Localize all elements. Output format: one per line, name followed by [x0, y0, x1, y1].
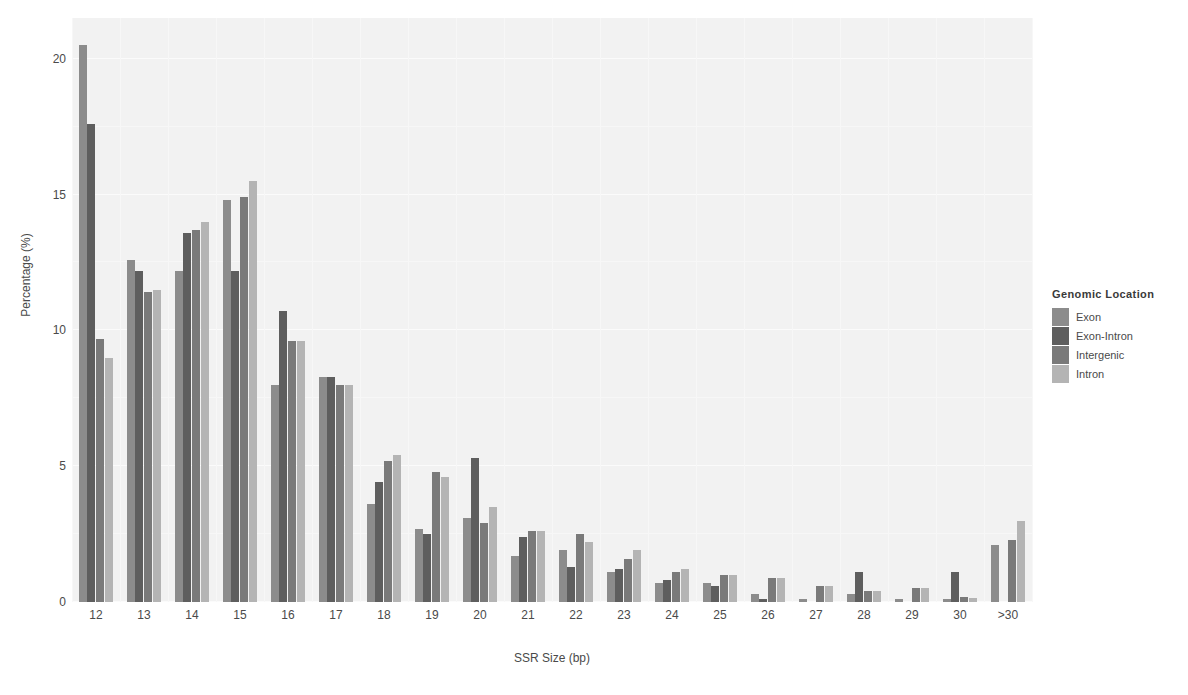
- bar: [847, 594, 855, 602]
- bar: [79, 45, 87, 602]
- bar: [672, 572, 680, 602]
- x-tick-label: 22: [552, 608, 600, 622]
- bar: [703, 583, 711, 602]
- legend-item-label: Exon: [1076, 311, 1101, 323]
- y-tick-label: 10: [26, 324, 66, 336]
- bar: [799, 599, 807, 602]
- bar: [711, 586, 719, 602]
- bar: [249, 181, 257, 602]
- legend-swatch-icon: [1052, 346, 1069, 364]
- legend-item: Intergenic: [1052, 345, 1182, 364]
- x-tick-label: 25: [696, 608, 744, 622]
- bar: [663, 580, 671, 602]
- bar: [816, 586, 824, 602]
- bar: [201, 222, 209, 602]
- x-tick-label: 12: [72, 608, 120, 622]
- x-tick-label: 23: [600, 608, 648, 622]
- x-tick-label: 14: [168, 608, 216, 622]
- bar: [175, 271, 183, 602]
- legend-swatch-icon: [1052, 308, 1069, 326]
- bar: [969, 598, 977, 602]
- legend-item-label: Exon-Intron: [1076, 330, 1133, 342]
- bar: [471, 458, 479, 602]
- legend-item: Exon: [1052, 307, 1182, 326]
- bar: [231, 271, 239, 602]
- bar: [576, 534, 584, 602]
- bar: [375, 482, 383, 602]
- x-tick-label: 30: [936, 608, 984, 622]
- bar: [96, 339, 104, 602]
- x-tick-label: 13: [120, 608, 168, 622]
- x-tick-label: 16: [264, 608, 312, 622]
- bar: [423, 534, 431, 602]
- bar: [729, 575, 737, 602]
- bar: [415, 529, 423, 602]
- x-tick-label: 19: [408, 608, 456, 622]
- y-tick-label: 15: [26, 189, 66, 201]
- bar: [825, 586, 833, 602]
- bar: [912, 588, 920, 602]
- x-tick-label: 21: [504, 608, 552, 622]
- bar: [960, 597, 968, 602]
- bar: [751, 594, 759, 602]
- bar: [288, 341, 296, 602]
- x-axis-ticks: 12131415161718192021222324252627282930>3…: [72, 608, 1032, 628]
- legend-swatch-icon: [1052, 327, 1069, 345]
- legend-swatch-icon: [1052, 365, 1069, 383]
- legend-item: Intron: [1052, 364, 1182, 383]
- bar: [528, 531, 536, 602]
- bar: [720, 575, 728, 602]
- y-axis-ticks: 05101520: [14, 18, 66, 602]
- bar: [279, 311, 287, 602]
- bar: [480, 523, 488, 602]
- bar: [345, 385, 353, 602]
- bar: [615, 569, 623, 602]
- bar: [240, 197, 248, 602]
- y-tick-label: 5: [26, 460, 66, 472]
- bar: [1008, 540, 1016, 602]
- bar: [87, 124, 95, 602]
- legend-item-label: Intergenic: [1076, 349, 1124, 361]
- bar: [864, 591, 872, 602]
- bar: [759, 599, 767, 602]
- bar: [271, 385, 279, 602]
- x-tick-label: 29: [888, 608, 936, 622]
- bar: [624, 559, 632, 602]
- legend-items: ExonExon-IntronIntergenicIntron: [1052, 307, 1182, 383]
- bar: [297, 341, 305, 602]
- bar: [681, 569, 689, 602]
- legend-item-label: Intron: [1076, 368, 1104, 380]
- x-tick-label: 15: [216, 608, 264, 622]
- bar: [144, 292, 152, 602]
- bar: [607, 572, 615, 602]
- legend-item: Exon-Intron: [1052, 326, 1182, 345]
- bar: [537, 531, 545, 602]
- bar: [855, 572, 863, 602]
- bar: [895, 599, 903, 602]
- bar: [153, 290, 161, 602]
- bar: [327, 377, 335, 602]
- bar: [367, 504, 375, 602]
- bar: [432, 472, 440, 602]
- gridline-vertical: [1032, 18, 1033, 602]
- bar: [183, 233, 191, 602]
- bar: [567, 567, 575, 602]
- bar: [223, 200, 231, 602]
- bar: [489, 507, 497, 602]
- plot-panel: [72, 18, 1032, 602]
- bar: [777, 578, 785, 602]
- bar: [943, 599, 951, 602]
- bar: [559, 550, 567, 602]
- bar: [519, 537, 527, 602]
- bar: [393, 455, 401, 602]
- x-tick-label: >30: [984, 608, 1032, 622]
- bar: [951, 572, 959, 602]
- bar: [655, 583, 663, 602]
- bar: [319, 377, 327, 602]
- x-tick-label: 26: [744, 608, 792, 622]
- bar: [336, 385, 344, 602]
- bar: [511, 556, 519, 602]
- bar: [441, 477, 449, 602]
- y-tick-label: 0: [26, 596, 66, 608]
- legend: Genomic Location ExonExon-IntronIntergen…: [1052, 288, 1182, 383]
